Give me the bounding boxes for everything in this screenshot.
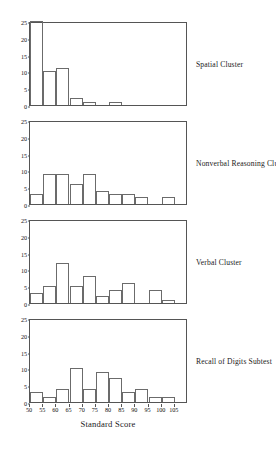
histogram-bar <box>135 197 148 204</box>
y-tick-label: 20 <box>21 37 27 43</box>
x-tick-label: 65 <box>66 407 72 413</box>
histogram-bar <box>162 300 175 303</box>
panel-label-verbal-cluster: Verbal Cluster <box>196 259 242 267</box>
y-tick-mark <box>28 73 31 74</box>
x-tick-label: 55 <box>39 407 45 413</box>
histogram-bar <box>56 389 69 402</box>
histogram-bar <box>162 197 175 204</box>
y-tick-label: 20 <box>21 136 27 142</box>
y-tick-mark <box>28 56 31 57</box>
histogram-bar <box>70 368 83 402</box>
x-tick-label: 80 <box>105 407 111 413</box>
y-tick-label: 10 <box>21 169 27 175</box>
histogram-bar <box>122 392 135 402</box>
y-tick-label: 15 <box>21 152 27 158</box>
histogram-bar <box>56 174 69 204</box>
y-tick-label: 20 <box>21 235 27 241</box>
y-tick-label: 25 <box>21 119 27 125</box>
y-tick-label: 25 <box>21 20 27 26</box>
plot-area-verbal-cluster: 0510152025 <box>29 220 187 304</box>
y-tick-mark <box>28 107 31 108</box>
histogram-bar <box>109 378 122 402</box>
histogram-bar <box>70 184 83 204</box>
histogram-bar <box>56 263 69 303</box>
x-tick-label: 105 <box>169 407 178 413</box>
y-tick-mark <box>28 305 31 306</box>
plot-area-spatial-cluster: 0510152025 <box>29 22 187 106</box>
y-tick-mark <box>28 155 31 156</box>
histogram-bar <box>83 276 96 303</box>
panel-label-nonverbal-reasoning-cluster: Nonverbal Reasoning Cluster <box>196 160 276 168</box>
histogram-bar <box>109 102 122 105</box>
y-tick-mark <box>28 189 31 190</box>
bars-verbal-cluster <box>30 221 186 303</box>
y-tick-label: 15 <box>21 251 27 257</box>
histogram-bar <box>149 290 162 303</box>
histogram-bar <box>30 293 43 303</box>
y-tick-mark <box>28 353 31 354</box>
histogram-bar <box>96 191 109 204</box>
histogram-bar <box>83 389 96 402</box>
y-tick-label: 15 <box>21 350 27 356</box>
histogram-bar <box>109 194 122 204</box>
y-tick-label: 25 <box>21 218 27 224</box>
histogram-bar <box>30 21 43 105</box>
y-tick-mark <box>28 387 31 388</box>
y-tick-label: 5 <box>24 384 27 390</box>
y-tick-mark <box>28 271 31 272</box>
y-tick-mark <box>28 254 31 255</box>
y-tick-mark <box>28 370 31 371</box>
y-tick-mark <box>28 206 31 207</box>
histogram-bar <box>43 397 56 402</box>
y-tick-label: 5 <box>24 87 27 93</box>
x-tick-label: 85 <box>118 407 124 413</box>
histogram-bar <box>96 296 109 303</box>
y-tick-mark <box>28 237 31 238</box>
y-tick-label: 20 <box>21 334 27 340</box>
histogram-bar <box>43 71 56 105</box>
y-tick-mark <box>28 138 31 139</box>
plot-area-recall-of-digits-subtest: 0510152025 <box>29 319 187 403</box>
y-tick-mark <box>28 221 31 222</box>
y-tick-mark <box>28 336 31 337</box>
y-tick-mark <box>28 172 31 173</box>
histogram-bar <box>122 194 135 204</box>
bars-recall-of-digits-subtest <box>30 320 186 402</box>
y-tick-mark <box>28 39 31 40</box>
y-tick-mark <box>28 122 31 123</box>
histogram-bar <box>96 372 109 402</box>
bars-spatial-cluster <box>30 23 186 105</box>
histogram-bar <box>43 174 56 204</box>
y-tick-mark <box>28 23 31 24</box>
histogram-bar <box>70 286 83 303</box>
x-tick-label: 100 <box>156 407 165 413</box>
x-tick-label: 90 <box>131 407 137 413</box>
plot-area-nonverbal-reasoning-cluster: 0510152025 <box>29 121 187 205</box>
histogram-bar <box>43 286 56 303</box>
x-tick-label: 75 <box>92 407 98 413</box>
bars-nonverbal-reasoning-cluster <box>30 122 186 204</box>
y-tick-label: 0 <box>24 104 27 110</box>
y-tick-label: 10 <box>21 70 27 76</box>
histogram-figure: 0510152025 Spatial Cluster 0510152025 No… <box>0 0 276 456</box>
panel-label-spatial-cluster: Spatial Cluster <box>196 61 243 69</box>
histogram-bar <box>56 68 69 105</box>
y-tick-label: 0 <box>24 302 27 308</box>
y-tick-mark <box>28 288 31 289</box>
y-tick-label: 0 <box>24 203 27 209</box>
x-axis-title: Standard Score <box>29 420 187 429</box>
histogram-bar <box>162 397 175 402</box>
y-tick-label: 25 <box>21 317 27 323</box>
x-tick-label: 50 <box>26 407 32 413</box>
y-tick-mark <box>28 320 31 321</box>
x-tick-label: 70 <box>79 407 85 413</box>
histogram-bar <box>30 392 43 402</box>
histogram-bar <box>83 102 96 105</box>
histogram-bar <box>122 283 135 303</box>
y-tick-label: 10 <box>21 268 27 274</box>
y-tick-label: 15 <box>21 53 27 59</box>
y-tick-label: 5 <box>24 186 27 192</box>
histogram-bar <box>70 98 83 105</box>
y-tick-mark <box>28 90 31 91</box>
histogram-bar <box>149 397 162 402</box>
